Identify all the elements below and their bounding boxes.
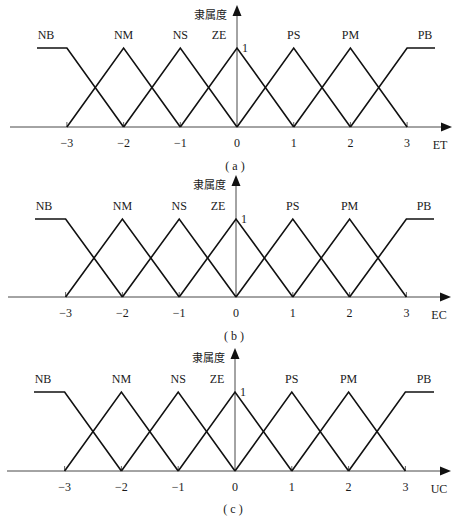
membership-ps: [236, 219, 350, 297]
set-label-nb: NB: [36, 199, 53, 213]
peak-value-label: 1: [240, 385, 246, 399]
membership-nb: [37, 48, 124, 127]
membership-ps: [235, 392, 349, 471]
set-label-nm: NM: [114, 28, 134, 42]
x-tick-label: 1: [289, 480, 295, 494]
x-tick-label: −3: [58, 480, 71, 494]
set-label-pm: PM: [341, 199, 359, 213]
membership-pb: [350, 219, 434, 297]
membership-nm: [66, 219, 180, 297]
x-tick-label: −2: [116, 306, 129, 320]
y-axis-title: 隶属度: [194, 8, 227, 22]
membership-pm: [293, 219, 407, 297]
x-tick-label: 2: [346, 480, 352, 494]
x-tick-label: 0: [233, 306, 239, 320]
y-axis-title: 隶属度: [192, 351, 225, 365]
set-label-pb: PB: [417, 372, 432, 386]
panel-b: NBNMNSZEPSPMPB1隶属度−3−2−10123EC( b ): [8, 175, 451, 343]
x-tick-label: −1: [172, 480, 185, 494]
set-label-pb: PB: [418, 28, 433, 42]
membership-ns: [122, 219, 236, 297]
set-label-ns: NS: [173, 28, 188, 42]
y-axis-title: 隶属度: [193, 178, 226, 192]
set-label-pm: PM: [342, 28, 360, 42]
membership-pm: [292, 392, 406, 471]
set-label-ps: PS: [286, 199, 299, 213]
x-tick-label: 0: [234, 136, 240, 150]
membership-pm: [294, 48, 407, 127]
x-tick-label: 1: [291, 136, 297, 150]
y-axis-arrow-icon: [232, 175, 241, 186]
x-axis-title: EC: [431, 308, 446, 322]
set-label-ps: PS: [285, 372, 298, 386]
peak-value-label: 1: [242, 41, 248, 55]
membership-nb: [34, 392, 121, 471]
membership-nb: [35, 219, 122, 297]
x-tick-label: −1: [174, 136, 187, 150]
set-label-nb: NB: [35, 372, 52, 386]
set-label-ns: NS: [172, 199, 187, 213]
x-tick-label: −3: [59, 306, 72, 320]
membership-pb: [349, 392, 434, 471]
y-axis-arrow-icon: [231, 348, 240, 359]
set-label-pb: PB: [417, 199, 432, 213]
x-axis-arrow-icon: [441, 123, 452, 132]
panel-c: NBNMNSZEPSPMPB1隶属度−3−2−10123UC( c ): [7, 348, 451, 516]
panel-caption: ( c ): [223, 502, 242, 516]
x-tick-label: 2: [347, 136, 353, 150]
set-label-ps: PS: [287, 28, 300, 42]
set-label-nb: NB: [38, 28, 55, 42]
set-label-pm: PM: [340, 372, 358, 386]
set-label-nm: NM: [113, 199, 133, 213]
membership-nm: [65, 392, 179, 471]
x-tick-label: −1: [173, 306, 186, 320]
x-tick-label: 3: [403, 306, 409, 320]
x-tick-label: 3: [402, 480, 408, 494]
panel-a: NBNMNSZEPSPMPB1隶属度−3−2−10123ET( a ): [10, 5, 452, 173]
set-label-ze: ZE: [212, 28, 227, 42]
x-axis-title: UC: [431, 482, 448, 496]
panel-caption: ( b ): [224, 329, 244, 343]
y-axis-arrow-icon: [233, 5, 242, 16]
x-tick-label: 0: [232, 480, 238, 494]
x-tick-label: −2: [117, 136, 130, 150]
panel-caption: ( a ): [225, 159, 244, 173]
x-tick-label: −3: [61, 136, 74, 150]
set-label-ze: ZE: [210, 372, 225, 386]
membership-ps: [237, 48, 350, 127]
membership-pb: [350, 48, 435, 127]
x-axis-title: ET: [433, 138, 448, 152]
x-axis-arrow-icon: [440, 467, 451, 476]
peak-value-label: 1: [241, 212, 247, 226]
membership-function-figure: NBNMNSZEPSPMPB1隶属度−3−2−10123ET( a )NBNMN…: [0, 0, 462, 526]
set-label-ns: NS: [171, 372, 186, 386]
x-tick-label: 2: [347, 306, 353, 320]
x-tick-label: 1: [290, 306, 296, 320]
x-axis-arrow-icon: [440, 293, 451, 302]
membership-ns: [124, 48, 237, 127]
set-label-ze: ZE: [211, 199, 226, 213]
set-label-nm: NM: [112, 372, 132, 386]
membership-ns: [121, 392, 235, 471]
x-tick-label: 3: [404, 136, 410, 150]
x-tick-label: −2: [115, 480, 128, 494]
membership-nm: [67, 48, 180, 127]
